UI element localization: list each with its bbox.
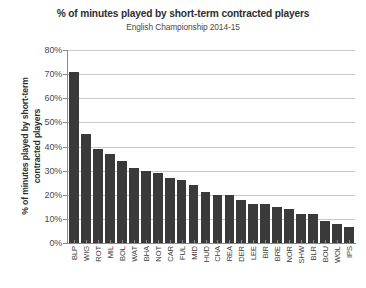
x-axis-tick-label: CHA [213, 246, 222, 262]
x-axis-tick: WAT [128, 244, 140, 288]
x-axis-tick-mark [313, 240, 314, 244]
bar [105, 154, 115, 243]
bars-container [68, 50, 355, 243]
y-axis-tick-mark [63, 147, 68, 148]
y-axis-tick-mark [63, 195, 68, 196]
x-axis-tick-label: BRE [273, 246, 282, 261]
y-axis-tick-mark [63, 243, 68, 244]
y-axis-tick-mark [63, 219, 68, 220]
y-axis-tick-label: 30% [16, 166, 62, 176]
x-axis-tick: BOU [319, 244, 331, 288]
y-axis-tick-mark [63, 98, 68, 99]
x-axis-tick-mark [229, 240, 230, 244]
bar [141, 171, 151, 243]
x-axis-tick-label: BLP [69, 246, 78, 260]
x-axis-tick-label: HUD [201, 246, 210, 262]
x-axis-tick-mark [241, 240, 242, 244]
y-axis-tick-label: 50% [16, 117, 62, 127]
x-axis-tick: REA [223, 244, 235, 288]
bar [260, 204, 270, 243]
x-axis-tick-mark [289, 240, 290, 244]
x-axis-tick: BLR [307, 244, 319, 288]
x-axis-tick: LEE [247, 244, 259, 288]
x-axis-tick: NOT [152, 244, 164, 288]
bar [213, 195, 223, 243]
y-axis-tick-label: 60% [16, 93, 62, 103]
x-axis-tick-mark [301, 240, 302, 244]
x-axis-tick-labels: BLPWIGROTMILBOLWATBHANOTCARFULMIDHUDCHAR… [68, 244, 355, 288]
x-axis-tick-label: NOR [285, 246, 294, 263]
x-axis-tick-label: MIL [105, 246, 114, 258]
x-axis-tick: BLP [68, 244, 80, 288]
x-axis-tick: HUD [200, 244, 212, 288]
y-axis-tick-label: 10% [16, 214, 62, 224]
bar [225, 195, 235, 243]
x-axis-tick-label: IPS [345, 246, 354, 258]
bar [177, 180, 187, 243]
x-axis-tick-mark [74, 240, 75, 244]
x-axis-tick-mark [182, 240, 183, 244]
x-axis-tick-mark [146, 240, 147, 244]
y-axis-tick-label: 20% [16, 190, 62, 200]
x-axis-tick-mark [277, 240, 278, 244]
x-axis-tick-label: WOL [333, 246, 342, 263]
x-axis-tick: MIL [104, 244, 116, 288]
bar [236, 200, 246, 243]
bar [201, 192, 211, 243]
x-axis-tick-label: CAR [165, 246, 174, 262]
x-axis-tick-label: LEE [249, 246, 258, 260]
x-axis-tick-mark [349, 240, 350, 244]
x-axis-tick: SHW [295, 244, 307, 288]
y-axis-tick-mark [63, 50, 68, 51]
x-axis-tick-mark [217, 240, 218, 244]
x-axis-tick-label: BLR [309, 246, 318, 260]
x-axis-tick: CAR [164, 244, 176, 288]
x-axis-tick-label: WIG [81, 246, 90, 261]
bar [296, 214, 306, 243]
x-axis-tick-mark [194, 240, 195, 244]
x-axis-tick-mark [122, 240, 123, 244]
y-axis-tick-mark [63, 74, 68, 75]
x-axis-tick-mark [158, 240, 159, 244]
x-axis-tick-label: DER [237, 246, 246, 262]
bar [93, 149, 103, 243]
bar [189, 185, 199, 243]
bar [129, 168, 139, 243]
x-axis-tick-mark [265, 240, 266, 244]
bar [153, 173, 163, 243]
bar [248, 204, 258, 243]
x-axis-tick: DER [235, 244, 247, 288]
x-axis-tick-mark [253, 240, 254, 244]
x-axis-tick-label: REA [225, 246, 234, 261]
y-axis-tick-label: 0% [16, 238, 62, 248]
bar [272, 207, 282, 243]
x-axis-tick-label: BHA [141, 246, 150, 261]
x-axis-tick: BHA [140, 244, 152, 288]
x-axis-tick-mark [110, 240, 111, 244]
y-axis-tick-mark [63, 122, 68, 123]
x-axis-tick-label: MID [189, 246, 198, 260]
bar [81, 134, 91, 243]
x-axis-tick: WOL [331, 244, 343, 288]
x-axis-tick-label: SHW [297, 246, 306, 263]
x-axis-tick: WIG [80, 244, 92, 288]
x-axis-tick-mark [134, 240, 135, 244]
x-axis-tick: FUL [176, 244, 188, 288]
x-axis-tick: IPS [343, 244, 355, 288]
x-axis-tick-label: BOU [321, 246, 330, 262]
x-axis-tick-mark [206, 240, 207, 244]
y-axis-tick-label: 70% [16, 69, 62, 79]
x-axis-tick: MID [188, 244, 200, 288]
bar [308, 214, 318, 243]
x-axis-tick: CHA [212, 244, 224, 288]
y-axis-tick-mark [63, 171, 68, 172]
y-axis-tick-labels: 80%70%60%50%40%30%20%10%0% [14, 0, 62, 288]
x-axis-tick-mark [170, 240, 171, 244]
x-axis-tick-mark [98, 240, 99, 244]
x-axis-tick-label: BIR [261, 246, 270, 258]
x-axis-tick-label: FUL [177, 246, 186, 260]
bar [284, 209, 294, 243]
x-axis-tick: BOL [116, 244, 128, 288]
bar [69, 72, 79, 243]
x-axis-tick-label: BOL [117, 246, 126, 261]
